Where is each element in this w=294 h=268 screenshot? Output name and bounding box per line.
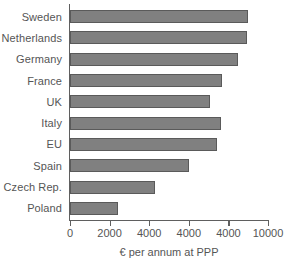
category-label: Poland [0,198,66,219]
x-axis-title: € per annum at PPP [70,246,268,258]
bar-row [70,6,268,27]
x-axis-tick-labels: 0200040004000400010000 [0,227,294,243]
category-label: Sweden [0,6,66,27]
x-axis-tick [268,221,269,226]
x-axis-tick [70,221,71,226]
bar [70,117,221,130]
bar-row [70,49,268,70]
bar-rows [70,6,268,219]
x-axis-tick-label: 10000 [253,227,284,239]
x-axis-tick [110,221,111,226]
bar-row [70,91,268,112]
x-axis-tick [149,221,150,226]
bar-row [70,70,268,91]
category-label: Netherlands [0,27,66,48]
bar-row [70,176,268,197]
category-label: Czech Rep. [0,176,66,197]
bar [70,74,222,87]
bar [70,10,248,23]
bar-row [70,134,268,155]
category-label: UK [0,91,66,112]
bar-chart: SwedenNetherlandsGermanyFranceUKItalyEUS… [0,0,294,268]
x-axis-tick-label: 0 [67,227,73,239]
bar-row [70,27,268,48]
x-axis-tick [228,221,229,226]
category-label: Spain [0,155,66,176]
bar [70,31,247,44]
x-axis-tick [189,221,190,226]
bar [70,138,217,151]
bar [70,159,189,172]
x-axis-tick-label: 2000 [97,227,121,239]
bar [70,181,155,194]
category-label: France [0,70,66,91]
bar [70,95,210,108]
plot-area [70,6,268,219]
category-label: Germany [0,49,66,70]
category-label: Italy [0,112,66,133]
bar-row [70,155,268,176]
bar [70,202,118,215]
x-axis-tick-label: 4000 [137,227,161,239]
x-axis-tick-label: 4000 [177,227,201,239]
bar [70,53,238,66]
bar-row [70,198,268,219]
bar-row [70,112,268,133]
category-axis-labels: SwedenNetherlandsGermanyFranceUKItalyEUS… [0,6,66,219]
x-axis-tick-label: 4000 [216,227,240,239]
category-label: EU [0,134,66,155]
